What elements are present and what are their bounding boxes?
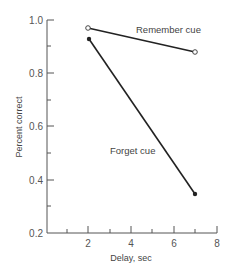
x-tick-label: 2 [85, 238, 91, 249]
data-point [193, 192, 197, 196]
y-axis [47, 20, 54, 233]
y-tick-label: 1.0 [29, 15, 43, 26]
series-label-forget: Forget cue [110, 145, 155, 156]
series-forget-cue [87, 37, 197, 196]
data-point [86, 26, 91, 31]
x-tick-label: 4 [128, 238, 134, 249]
y-tick-label: 0.8 [29, 68, 43, 79]
data-point [193, 50, 198, 55]
y-axis-label: Percent correct [14, 96, 24, 158]
y-tick-label: 0.4 [29, 175, 43, 186]
x-axis-label: Delay, sec [110, 253, 152, 263]
x-tick-label: 6 [171, 238, 177, 249]
x-tick-label: 8 [214, 238, 220, 249]
series-label-remember: Remember cue [136, 24, 201, 35]
data-point [87, 37, 91, 41]
chart: 1.0 0.8 0.6 0.4 0.2 2 4 6 8 Delay, sec P… [0, 0, 229, 265]
y-tick-label: 0.6 [29, 121, 43, 132]
x-axis [47, 226, 217, 233]
y-tick-label: 0.2 [29, 228, 43, 239]
